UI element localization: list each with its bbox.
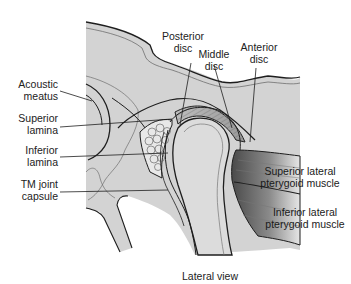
label-line: lamina: [4, 124, 58, 136]
label-line: lamina: [4, 156, 58, 168]
label-line: Anterior: [231, 41, 287, 53]
label-superior-lamina: Superior lamina: [4, 112, 58, 136]
mandibular-condyle: [173, 118, 232, 255]
label-line: meatus: [4, 90, 58, 102]
label-tm-joint-capsule: TM joint capsule: [4, 178, 58, 202]
label-superior-lateral-pterygoid: Superior lateral pterygoid muscle: [250, 165, 350, 189]
label-line: Posterior: [153, 30, 213, 42]
label-line: Acoustic: [4, 78, 58, 90]
label-inferior-lamina: Inferior lamina: [4, 144, 58, 168]
figure-caption: Lateral view: [182, 270, 238, 282]
label-acoustic-meatus: Acoustic meatus: [4, 78, 58, 102]
label-line: disc: [231, 53, 287, 65]
label-line: Inferior lateral: [255, 206, 351, 218]
label-line: Superior: [4, 112, 58, 124]
label-line: pterygoid muscle: [250, 177, 350, 189]
label-inferior-lateral-pterygoid: Inferior lateral pterygoid muscle: [255, 206, 351, 230]
label-line: Inferior: [4, 144, 58, 156]
label-line: TM joint: [4, 178, 58, 190]
label-line: capsule: [4, 190, 58, 202]
label-line: pterygoid muscle: [255, 218, 351, 230]
label-anterior-disc: Anterior disc: [231, 41, 287, 65]
label-line: Superior lateral: [250, 165, 350, 177]
